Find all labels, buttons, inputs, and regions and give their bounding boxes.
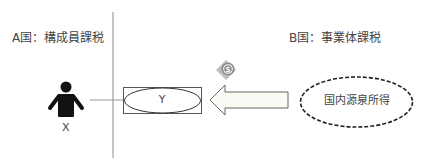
entity-y-label: Y bbox=[123, 93, 201, 107]
flow-arrow-left bbox=[210, 85, 288, 115]
domestic-income-label: 国内源泉所得 bbox=[300, 94, 413, 108]
member-x-label: X bbox=[62, 121, 70, 135]
country-b-label: B国：事業体課税 bbox=[289, 31, 381, 45]
diagram-canvas: S A国：構成員課税 B国：事業体課税 X Y 国内源泉所得 bbox=[0, 0, 424, 166]
person-icon bbox=[50, 82, 82, 118]
country-a-label: A国：構成員課税 bbox=[12, 31, 104, 45]
money-tag-icon: S bbox=[216, 60, 236, 80]
svg-text:S: S bbox=[225, 66, 230, 74]
